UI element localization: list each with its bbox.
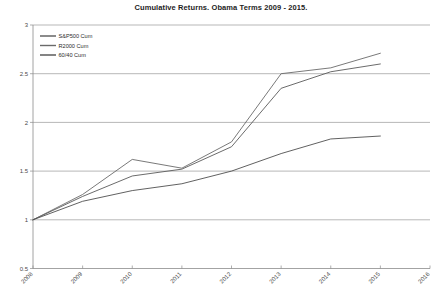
x-axis-tick-label: 2016 — [417, 271, 431, 285]
legend-item-label: S&P500 Cum — [59, 33, 93, 39]
x-axis-tick-label: 2010 — [119, 271, 133, 285]
x-axis-labels-group: 200820092010201120122013201420152016 — [20, 270, 431, 284]
x-axis-tick-label: 2012 — [219, 271, 233, 285]
x-axis-tick-label: 2011 — [169, 270, 183, 284]
y-axis-tick-label: 0.5 — [20, 266, 29, 272]
y-axis-tick-label: 1.5 — [20, 168, 29, 174]
series-line — [33, 136, 380, 220]
x-axis-tick-label: 2009 — [70, 271, 84, 285]
y-axis-tick-label: 3 — [25, 22, 29, 28]
chart-legend: S&P500 CumR2000 Cum60/40 Cum — [40, 33, 93, 58]
x-axis-tick-label: 2013 — [268, 271, 282, 285]
x-axis-tick-label: 2008 — [20, 271, 34, 285]
gridlines-group — [33, 25, 430, 220]
y-axis-tick-label: 2.5 — [20, 71, 29, 77]
x-axis-tick-label: 2014 — [318, 271, 332, 285]
series-line — [33, 64, 380, 220]
legend-item-label: 60/40 Cum — [59, 52, 87, 58]
chart-container: Cumulative Returns. Obama Terms 2009 - 2… — [0, 0, 442, 301]
series-lines-group — [33, 53, 380, 220]
y-axis-tick-label: 1 — [25, 217, 29, 223]
y-axis-tick-label: 2 — [25, 120, 29, 126]
series-line — [33, 53, 380, 220]
line-chart-plot: 0.511.522.53 200820092010201120122013201… — [0, 0, 442, 301]
x-axis-ticks-group — [33, 266, 430, 269]
legend-item-label: R2000 Cum — [59, 43, 89, 49]
x-axis-tick-label: 2015 — [367, 271, 381, 285]
y-axis-labels-group: 0.511.522.53 — [20, 22, 33, 272]
